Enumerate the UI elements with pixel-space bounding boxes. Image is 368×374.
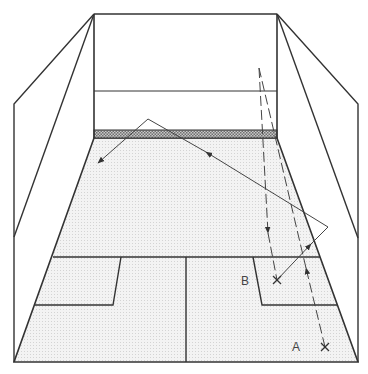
front-wall — [94, 14, 277, 138]
tin-band — [94, 130, 277, 138]
squash-court-diagram: B A — [0, 0, 368, 374]
label-a: A — [292, 340, 300, 354]
label-b: B — [241, 274, 249, 288]
